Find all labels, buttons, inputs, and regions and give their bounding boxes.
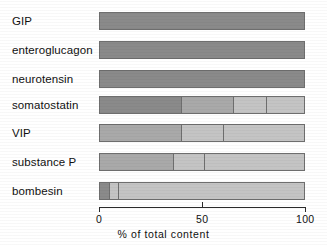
x-axis-line bbox=[99, 207, 305, 208]
x-tick-label: 0 bbox=[96, 213, 102, 225]
bar-segment bbox=[99, 12, 305, 30]
chart-row: GIP bbox=[0, 10, 327, 32]
bar-segment bbox=[181, 124, 222, 142]
x-tick bbox=[305, 207, 306, 212]
bar-segment bbox=[118, 182, 305, 200]
category-label-somatostatin: somatostatin bbox=[0, 94, 88, 116]
category-label-substance-p: substance P bbox=[0, 151, 88, 173]
category-label-bombesin: bombesin bbox=[0, 180, 88, 202]
bar-segment bbox=[99, 182, 109, 200]
bar-segment bbox=[266, 96, 305, 114]
x-tick bbox=[99, 207, 100, 212]
bar-segment bbox=[99, 153, 173, 171]
chart-row: substance P bbox=[0, 151, 327, 173]
bar-track bbox=[99, 96, 305, 114]
bar-track bbox=[99, 70, 305, 88]
x-tick bbox=[202, 202, 203, 207]
category-label-vip: VIP bbox=[0, 122, 88, 144]
bar-track bbox=[99, 182, 305, 200]
bar-segment bbox=[99, 70, 305, 88]
category-label-neurotensin: neurotensin bbox=[0, 68, 88, 90]
x-tick-label: 50 bbox=[196, 213, 208, 225]
category-label-enteroglucagon: enteroglucagon bbox=[0, 39, 88, 61]
chart-row: enteroglucagon bbox=[0, 39, 327, 61]
bar-segment bbox=[109, 182, 117, 200]
category-label-gip: GIP bbox=[0, 10, 88, 32]
bar-track bbox=[99, 153, 305, 171]
bar-segment bbox=[99, 124, 181, 142]
x-axis-title: % of total content bbox=[0, 228, 327, 240]
chart-row: neurotensin bbox=[0, 68, 327, 90]
bar-track bbox=[99, 12, 305, 30]
chart-row: somatostatin bbox=[0, 94, 327, 116]
bar-segment bbox=[223, 124, 305, 142]
bar-segment bbox=[99, 41, 305, 59]
bar-track bbox=[99, 41, 305, 59]
bar-chart: GIPenteroglucagonneurotensinsomatostatin… bbox=[0, 0, 327, 245]
bar-segment bbox=[99, 96, 181, 114]
bar-segment bbox=[181, 96, 233, 114]
bar-segment bbox=[173, 153, 204, 171]
bar-segment bbox=[233, 96, 266, 114]
chart-row: VIP bbox=[0, 122, 327, 144]
x-tick-label: 100 bbox=[296, 213, 314, 225]
bar-track bbox=[99, 124, 305, 142]
chart-row: bombesin bbox=[0, 180, 327, 202]
bar-segment bbox=[204, 153, 305, 171]
